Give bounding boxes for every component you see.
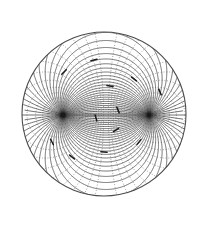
coordinate-net-canvas <box>0 0 209 229</box>
direction-tick-marker <box>107 86 113 87</box>
bipolar-coordinate-figure <box>0 0 209 229</box>
figure-background <box>0 0 209 229</box>
left-focus-marker <box>60 112 65 117</box>
right-focus-marker <box>147 113 151 117</box>
